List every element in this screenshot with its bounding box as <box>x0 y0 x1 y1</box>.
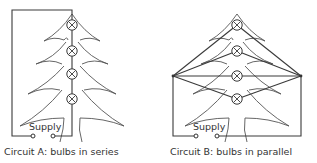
circuit-a: Supply Circuit A: bulbs in series <box>4 10 124 157</box>
bulb-icon <box>67 69 77 79</box>
bulb-icon <box>67 20 77 30</box>
supply-terminal-icon <box>194 134 198 138</box>
circuit-b: Supply Circuit B: bulbs in parallel <box>170 14 302 157</box>
junction-node <box>172 75 175 78</box>
bulbs-b <box>232 20 242 104</box>
bulb-icon <box>232 20 242 30</box>
supply-terminal-icon <box>31 134 35 138</box>
caption-b: Circuit B: bulbs in parallel <box>170 146 292 157</box>
bulb-icon <box>232 94 242 104</box>
bulb-icon <box>67 94 77 104</box>
supply-terminal-icon <box>51 134 55 138</box>
bulb-icon <box>67 46 77 56</box>
supply-terminal-icon <box>215 134 219 138</box>
supply-label-b: Supply <box>193 121 226 132</box>
bulb-icon <box>232 46 242 56</box>
series-wires <box>12 10 72 136</box>
junction-node <box>300 75 303 78</box>
circuit-diagrams: Supply Circuit A: bulbs in series <box>0 0 317 163</box>
supply-label-a: Supply <box>29 121 62 132</box>
caption-a: Circuit A: bulbs in series <box>4 146 119 157</box>
bulb-icon <box>232 71 242 81</box>
